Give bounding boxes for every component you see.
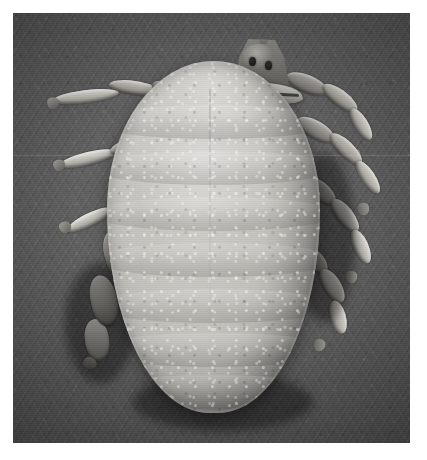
plate-vignette [13,13,410,443]
figure-frame [0,0,427,460]
micrograph-plate [13,13,410,443]
